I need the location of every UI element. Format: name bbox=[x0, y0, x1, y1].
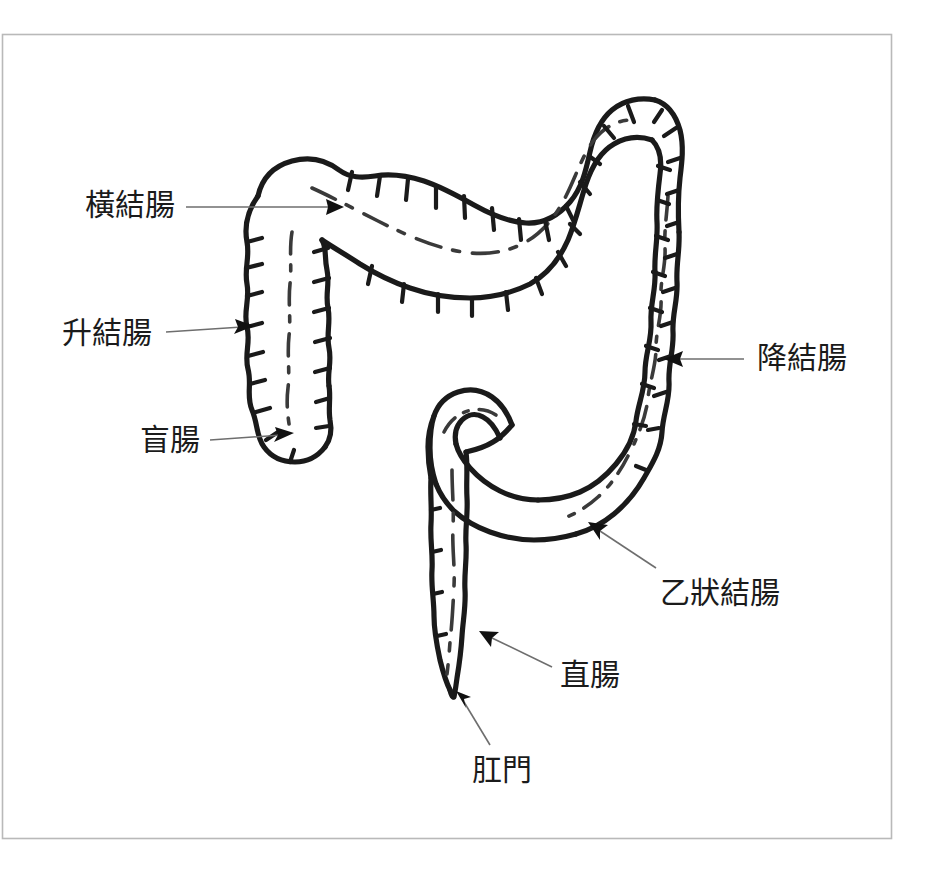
label-transverse-colon: 橫結腸 bbox=[85, 190, 175, 220]
leader-descending-colon bbox=[664, 351, 744, 367]
leader-transverse-colon bbox=[186, 199, 344, 215]
figure-root: 橫結腸 升結腸 盲腸 降結腸 乙狀結腸 直腸 肛門 bbox=[0, 0, 938, 869]
ascending-colon-inner-wall bbox=[322, 240, 330, 386]
label-ascending-colon: 升結腸 bbox=[62, 318, 152, 348]
sigmoid-loop-crest-wall bbox=[434, 390, 512, 425]
leader-rectum bbox=[479, 631, 552, 667]
label-anus: 肛門 bbox=[472, 755, 532, 785]
anus-opening bbox=[450, 690, 453, 697]
leader-ascending-colon bbox=[166, 319, 254, 334]
label-sigmoid-colon: 乙狀結腸 bbox=[660, 578, 780, 608]
ascending-colon-outer-wall bbox=[246, 196, 325, 462]
rectum-right-wall bbox=[454, 452, 467, 697]
label-cecum: 盲腸 bbox=[140, 425, 200, 455]
taenia-ascending-colon bbox=[287, 232, 292, 430]
leader-cecum bbox=[210, 427, 294, 442]
cecum-wall bbox=[325, 386, 331, 447]
leader-anus bbox=[456, 691, 490, 745]
haustra-marks-transverse-colon bbox=[348, 106, 634, 316]
leader-sigmoid-colon bbox=[588, 522, 656, 568]
colon-outline bbox=[246, 99, 683, 697]
label-rectum: 直腸 bbox=[560, 660, 620, 690]
rectosigmoid-junction-wall bbox=[428, 416, 436, 484]
sigmoid-to-rectum-connector bbox=[466, 425, 512, 452]
label-descending-colon: 降結腸 bbox=[757, 343, 847, 373]
figure-frame bbox=[3, 35, 892, 839]
splenic-flexure-inner-wall bbox=[652, 140, 661, 272]
